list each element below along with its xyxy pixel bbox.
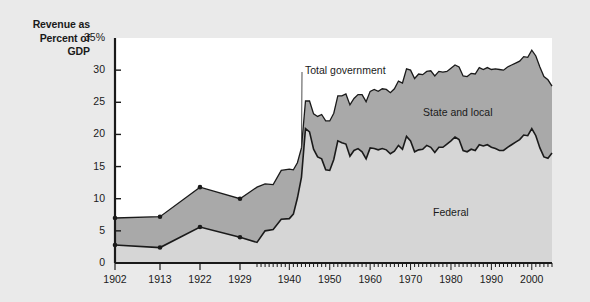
chart-figure: Revenue as Percent of GDP 05101520253035… — [0, 0, 590, 302]
x-tick-label-1902: 1902 — [95, 274, 135, 285]
y-tick-label-20: 20 — [75, 128, 105, 139]
y-tick-label-15: 15 — [75, 161, 105, 172]
x-tick-label-1970: 1970 — [391, 274, 431, 285]
x-tick-label-1929: 1929 — [220, 274, 260, 285]
x-tick-label-1922: 1922 — [180, 274, 220, 285]
annotation-total-government: Total government — [305, 64, 386, 76]
x-tick-label-1940: 1940 — [269, 274, 309, 285]
x-tick-label-1990: 1990 — [471, 274, 511, 285]
y-tick-label-30: 30 — [75, 64, 105, 75]
y-tick-label-0: 0 — [75, 257, 105, 268]
y-tick-label-10: 10 — [75, 193, 105, 204]
y-tick-label-25: 25 — [75, 96, 105, 107]
x-tick-label-1913: 1913 — [140, 274, 180, 285]
x-tick-label-1960: 1960 — [350, 274, 390, 285]
y-tick-label-5: 5 — [75, 225, 105, 236]
x-tick-label-2000: 2000 — [512, 274, 552, 285]
annotation-federal: Federal — [433, 206, 469, 218]
y-tick-label-35: 35% — [75, 32, 105, 43]
x-tick-label-1950: 1950 — [310, 274, 350, 285]
x-tick-label-1980: 1980 — [431, 274, 471, 285]
annotation-state-and-local: State and local — [423, 106, 492, 118]
